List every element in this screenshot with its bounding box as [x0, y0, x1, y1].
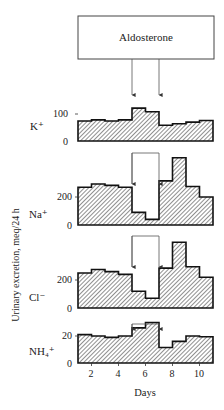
- step-bars-cl: [78, 242, 213, 308]
- panel-k: [75, 108, 213, 141]
- aldosterone-label: Aldosterone: [119, 31, 173, 43]
- step-bars-na: [78, 158, 213, 225]
- x-tick-labels: 2 4 6 8 10: [89, 368, 205, 379]
- ion-label-cl: Cl⁻: [29, 291, 45, 303]
- ion-label-k: K⁺: [30, 120, 44, 132]
- y-tick-na-lo: 0: [67, 220, 72, 231]
- y-tick-nh4-lo: 0: [67, 358, 72, 369]
- y-tick-k-hi: 100: [53, 108, 68, 119]
- step-bars-k: [78, 108, 213, 141]
- aldosterone-arrows: [132, 59, 159, 95]
- x-tick: 8: [170, 368, 175, 379]
- y-tick-cl-hi: 200: [57, 274, 72, 285]
- x-tick: 10: [194, 368, 204, 379]
- y-tick-cl-lo: 0: [67, 303, 72, 314]
- panel-nh4: [75, 323, 213, 364]
- panel-na: [75, 153, 213, 225]
- aldosterone-period-indicator: [132, 236, 159, 267]
- y-tick-nh4-hi: 20: [62, 330, 72, 341]
- ion-label-na: Na⁺: [29, 208, 48, 220]
- ion-label-nh4: NH₄⁺: [29, 345, 55, 357]
- y-tick-k-lo: 0: [63, 136, 68, 147]
- x-axis-label: Days: [134, 387, 156, 398]
- aldosterone-period-indicator: [132, 153, 159, 184]
- panel-cl: [75, 236, 213, 308]
- step-bars-nh4: [78, 323, 213, 364]
- panel-labels: K⁺ 100 0 Na⁺ 200 0 Cl⁻ 200 0 NH₄⁺ 20 0: [29, 108, 72, 369]
- y-tick-na-hi: 200: [57, 191, 72, 202]
- x-tick: 4: [116, 368, 121, 379]
- x-tick: 6: [143, 368, 148, 379]
- aldosterone-box: Aldosterone: [78, 16, 214, 59]
- x-tick: 2: [89, 368, 94, 379]
- aldosterone-chart: Aldosterone Urinary excretion, meq/24 h …: [0, 0, 224, 410]
- y-axis-label: Urinary excretion, meq/24 h: [10, 208, 21, 321]
